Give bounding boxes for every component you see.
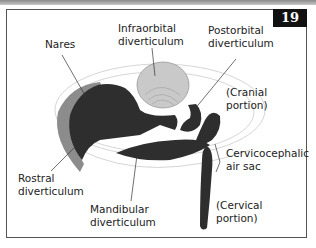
infraorbital-diverticulum bbox=[137, 62, 189, 108]
label-infraorbital-diverticulum: Infraorbital diverticulum bbox=[118, 22, 184, 48]
mandibular-diverticulum bbox=[116, 140, 210, 161]
label-cervicocephalic-air-sac: Cervicocephalic air sac bbox=[226, 147, 309, 173]
label-rostral-diverticulum: Rostral diverticulum bbox=[18, 172, 84, 198]
label-mandibular-diverticulum: Mandibular diverticulum bbox=[90, 203, 156, 229]
cervical-portion bbox=[200, 146, 212, 230]
label-cervical-portion: (Cervical portion) bbox=[216, 199, 262, 225]
label-postorbital-diverticulum: Postorbital diverticulum bbox=[208, 24, 274, 50]
label-nares: Nares bbox=[45, 38, 75, 51]
label-cranial-portion: (Cranial portion) bbox=[226, 86, 268, 112]
postorbital-diverticulum bbox=[180, 104, 201, 132]
